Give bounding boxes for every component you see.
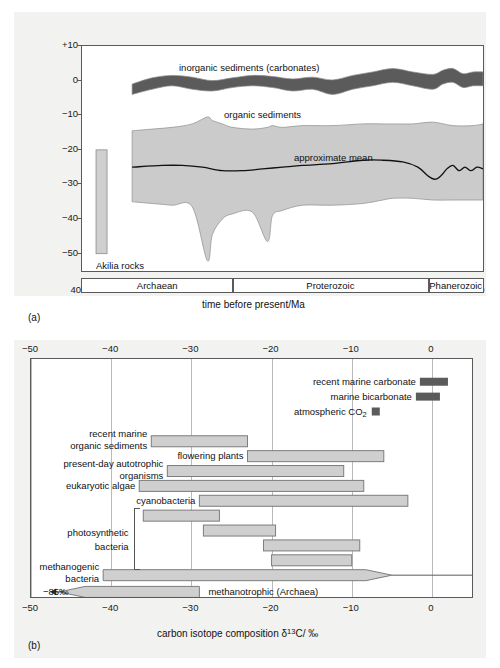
panel-b-label-recent-marine-organic-sediments-line1: recent marine [31,428,147,439]
panel-b-bottom-tick-label: −20 [255,602,287,613]
panel-b-label-methanogenic-line2: bacteria [31,573,99,584]
panel-b-label-cyanobacteria: cyanobacteria [31,495,195,506]
panel-a-y-tick-mark [77,45,81,46]
panel-a-annotation-inorganic-sediments: inorganic sediments (carbonates) [179,62,319,73]
panel-b-top-tick-label: −40 [94,343,126,354]
panel-a-y-tick-mark [77,218,81,219]
panel-a-y-tick-label: −50 [50,247,78,258]
panel-b-label-marine-bicarbonate: marine bicarbonate [31,391,412,402]
panel-b-bar-photosynthetic-bacteria-1- [143,510,219,521]
panel-b-label-methanotrophic: methanotrophic (Archaea) [208,586,318,597]
panel-a-y-tick-mark [77,114,81,115]
panel-a-era-label: Archaean [82,280,232,291]
panel-b-top-tick-label: −50 [14,343,46,354]
panel-b-bar-marine-bicarbonate [416,393,440,401]
panel-a-y-tick-label: −40 [50,212,78,223]
panel-b-x-axis-title: carbon isotope composition δ13C/ ‰ [157,627,318,639]
panel-a-plot-svg [82,46,483,271]
panel-b-label-methanogenic-line1: methanogenic [31,561,99,572]
panel-b-bar-cyanobacteria [199,495,407,506]
panel-a-annotation-approximate-mean: approximate mean [294,152,373,163]
panel-a-annotation-organic-sediments: organic sediments [224,109,301,120]
panel-b-bar-methanogenic-bacteria [103,570,392,581]
panel-b-label-atmospheric-co2: atmospheric CO2 [31,406,367,419]
panel-a-akilia-rocks-bar [96,150,107,254]
panel-b-bar-recent-marine-organic-sediments [151,436,247,447]
panel-b-bar-methanotrophic-archaea- [59,586,199,597]
panel-b-bar-recent-marine-carbonate [420,378,448,386]
panel-a-x-axis-title: time before present/Ma [202,299,305,310]
panel-a-y-tick-label: −20 [50,143,78,154]
panel-b-label-recent-marine-carbonate: recent marine carbonate [31,376,416,387]
panel-a-era-divider [232,279,233,292]
panel-a-plot-frame [81,45,484,272]
panel-a-annotation-akilia-rocks: Akilia rocks [96,260,144,271]
figure-page: carbon isotope composition δ13C/ ‰ +100−… [0,0,500,668]
panel-b-top-tick-label: 0 [415,343,447,354]
panel-b-label-minus-85: −85‰ [43,586,69,597]
panel-b: −50−40−30−20−100 recent marine carbonate… [14,340,486,658]
panel-b-bar-photosynthetic-bacteria-3- [264,540,360,551]
panel-a-tag: (a) [28,312,40,323]
panel-b-bottom-tick-label: −40 [94,602,126,613]
panel-a-y-tick-label: −10 [50,108,78,119]
panel-b-bar-photosynthetic-bacteria-4- [272,555,352,566]
panel-b-bar-photosynthetic-bacteria-2- [203,525,275,536]
panel-a-era-bar: ArchaeanProterozoicPhanerozoic [81,278,484,293]
panel-b-photosynthetic-bracket [134,508,140,571]
panel-b-bar-flowering-plants [247,451,383,462]
panel-b-tag: (b) [28,640,40,651]
panel-b-bottom-tick-label: 0 [415,602,447,613]
panel-b-bottom-tick-label: −30 [174,602,206,613]
panel-b-bar-eukaryotic-algae [139,480,364,491]
panel-b-bar-atmospheric-co2 [372,408,380,416]
panel-b-bottom-tick-label: −10 [335,602,367,613]
panel-b-label-photosynthetic-line2: bacteria [31,541,129,552]
panel-a-y-tick-mark [77,253,81,254]
panel-a-era-label: Phanerozoic [428,280,483,291]
panel-a-era-divider [428,279,429,292]
panel-b-plot-frame: recent marine carbonatemarine bicarbonat… [30,358,473,598]
panel-a-era-label: Proterozoic [232,280,428,291]
panel-a-y-tick-mark [77,149,81,150]
panel-b-bottom-tick-label: −50 [14,602,46,613]
panel-a: carbon isotope composition δ13C/ ‰ +100−… [14,12,486,296]
panel-b-label-photosynthetic-line1: photosynthetic [31,527,129,538]
panel-b-top-tick-label: −30 [174,343,206,354]
panel-a-y-tick-label: 0 [50,74,78,85]
panel-a-y-tick-mark [77,80,81,81]
panel-b-label-present-day-autotrophic-line1: present-day autotrophic [31,458,163,469]
panel-b-top-tick-label: −20 [255,343,287,354]
panel-b-bar-present-day-autotrophic-organisms [167,466,343,477]
panel-b-top-tick-label: −10 [335,343,367,354]
panel-b-label-eukaryotic-algae: eukaryotic algae [31,480,135,491]
panel-a-band-organic-sediments [132,117,483,261]
panel-a-y-tick-mark [77,183,81,184]
panel-a-y-tick-label: +10 [50,39,78,50]
panel-a-y-tick-label: −30 [50,177,78,188]
